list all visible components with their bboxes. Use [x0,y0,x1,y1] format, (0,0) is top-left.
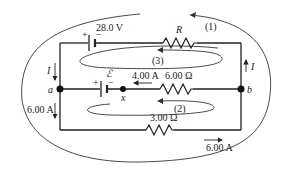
loop-2-arrowhead-icon [157,98,163,104]
node-b-dot [238,86,245,93]
battery-emf-label: ℰ [106,68,113,79]
current-bottom-label: 6.00 A [206,142,233,153]
resistor-6ohm-label: 6.00 Ω [165,70,192,81]
current-left-top-label: I [46,65,51,76]
point-x-label: x [120,92,126,103]
battery-emf [101,81,107,97]
node-a-dot [57,86,64,93]
loop-3-arrowhead-icon [157,47,163,53]
battery-28v-plus: + [82,29,88,40]
loop-3-label: (3) [152,55,164,67]
current-left-bottom-label: 6.00 A [27,104,54,115]
battery-28v [89,35,95,51]
node-a-label: a [48,84,53,95]
loop-1-label: (1) [205,21,217,33]
loop-2-label: (2) [174,103,186,115]
resistor-3ohm [146,125,174,135]
resistor-r-label: R [175,24,182,35]
current-right-label: I [250,61,255,72]
resistor-6ohm [160,84,193,94]
circuit-diagram: + − 28.0 V R + − ℰ x 4.00 A 6.00 Ω 3.00 … [0,0,282,175]
loop-1-arrowhead-icon [190,12,196,18]
battery-emf-plus: + [93,77,99,88]
current-mid-label: 4.00 A [132,70,159,81]
battery-28v-label: 28.0 V [96,22,124,33]
node-b-label: b [247,84,252,95]
